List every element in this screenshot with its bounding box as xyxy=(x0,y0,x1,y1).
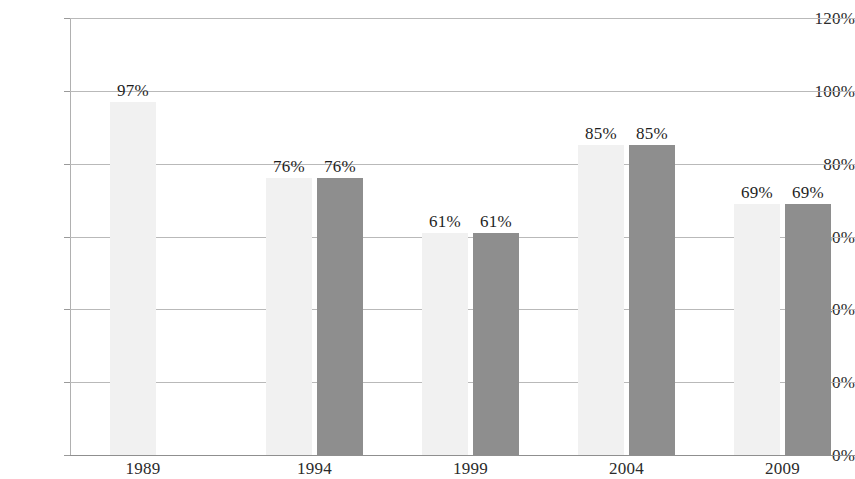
plot-area xyxy=(70,18,855,455)
bar xyxy=(578,145,624,455)
x-axis-category-label: 1999 xyxy=(426,460,516,477)
data-value-label: 69% xyxy=(777,184,839,201)
bar xyxy=(629,145,675,455)
data-value-label: 97% xyxy=(102,82,164,99)
bar xyxy=(785,204,831,455)
x-axis-category-label: 1994 xyxy=(270,460,360,477)
bar xyxy=(473,233,519,455)
gridline xyxy=(70,164,855,165)
bar xyxy=(266,178,312,455)
data-value-label: 85% xyxy=(621,125,683,142)
x-axis-category-label: 2009 xyxy=(738,460,828,477)
x-axis-category-label: 1989 xyxy=(98,460,188,477)
x-axis-category-label: 2004 xyxy=(582,460,672,477)
gridline xyxy=(70,91,855,92)
gridline xyxy=(70,18,855,19)
bar-chart: 120%100%80%60%40%20%0% 97%76%76%61%61%85… xyxy=(0,0,855,479)
bar xyxy=(422,233,468,455)
bar xyxy=(317,178,363,455)
bar xyxy=(734,204,780,455)
bar xyxy=(110,102,156,455)
axis-baseline xyxy=(70,455,855,456)
data-value-label: 76% xyxy=(309,158,371,175)
data-value-label: 61% xyxy=(465,213,527,230)
